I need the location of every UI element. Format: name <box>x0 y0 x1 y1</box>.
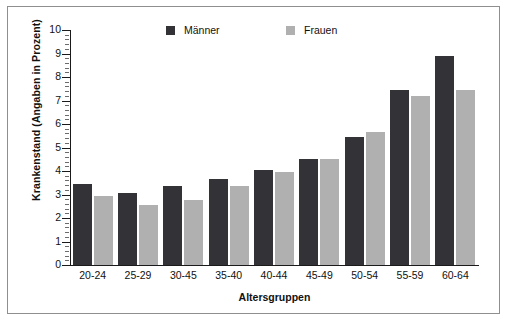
bar-männer-60-64 <box>435 56 454 265</box>
bar-group <box>435 30 475 265</box>
y-axis-tick <box>62 218 70 219</box>
y-axis-minor-tick <box>65 199 69 200</box>
bar-group <box>299 30 339 265</box>
chart-figure: MännerFrauen 012345678910 Krankenstand (… <box>0 0 507 326</box>
bar-group <box>73 30 113 265</box>
y-axis-minor-tick <box>65 166 69 167</box>
bar-männer-20-24 <box>73 184 92 265</box>
y-axis-tick <box>62 30 70 31</box>
bar-frauen-35-40 <box>230 186 249 265</box>
x-axis-line <box>70 265 479 266</box>
y-axis-minor-tick <box>65 152 69 153</box>
y-axis-minor-tick <box>65 204 69 205</box>
bar-frauen-40-44 <box>275 172 294 265</box>
y-axis-minor-tick <box>65 133 69 134</box>
bar-group <box>254 30 294 265</box>
bar-frauen-60-64 <box>456 90 475 265</box>
bar-group <box>118 30 158 265</box>
bar-frauen-50-54 <box>366 132 385 265</box>
y-axis-minor-tick <box>65 251 69 252</box>
y-axis-minor-tick <box>65 91 69 92</box>
y-axis-minor-tick <box>65 96 69 97</box>
y-axis-minor-tick <box>65 237 69 238</box>
y-axis-tick <box>62 148 70 149</box>
y-axis-minor-tick <box>65 110 69 111</box>
bar-frauen-25-29 <box>139 205 158 265</box>
bar-männer-30-45 <box>163 186 182 265</box>
y-axis-minor-tick <box>65 185 69 186</box>
y-axis-minor-tick <box>65 129 69 130</box>
bar-männer-25-29 <box>118 193 137 265</box>
y-axis-minor-tick <box>65 232 69 233</box>
y-axis-minor-tick <box>65 35 69 36</box>
y-axis-minor-tick <box>65 63 69 64</box>
y-axis-tick <box>62 124 70 125</box>
y-axis-minor-tick <box>65 72 69 73</box>
y-axis-minor-tick <box>65 213 69 214</box>
y-axis-minor-tick <box>65 190 69 191</box>
y-axis-tick <box>62 171 70 172</box>
y-axis-minor-tick <box>65 119 69 120</box>
y-axis-minor-tick <box>65 209 69 210</box>
bar-männer-40-44 <box>254 170 273 265</box>
x-axis-category-label: 60-64 <box>425 269 485 281</box>
y-axis-minor-tick <box>65 138 69 139</box>
bar-group <box>163 30 203 265</box>
y-axis-minor-tick <box>65 180 69 181</box>
bar-männer-35-40 <box>209 179 228 265</box>
y-axis-minor-tick <box>65 39 69 40</box>
y-axis-minor-tick <box>65 246 69 247</box>
y-axis-tick <box>62 101 70 102</box>
y-axis-tick <box>62 54 70 55</box>
y-axis-minor-tick <box>65 105 69 106</box>
y-axis-minor-tick <box>65 115 69 116</box>
y-axis-tick <box>62 195 70 196</box>
bar-männer-50-54 <box>345 137 364 265</box>
bar-männer-45-49 <box>299 159 318 265</box>
y-axis-minor-tick <box>65 176 69 177</box>
bar-group <box>345 30 385 265</box>
y-axis-minor-tick <box>65 256 69 257</box>
y-axis-minor-tick <box>65 162 69 163</box>
bar-group <box>209 30 249 265</box>
y-axis-minor-tick <box>65 82 69 83</box>
y-axis-tick <box>62 265 70 266</box>
y-axis-minor-tick <box>65 143 69 144</box>
bar-frauen-30-45 <box>184 200 203 265</box>
y-axis-tick <box>62 242 70 243</box>
y-axis-minor-tick <box>65 58 69 59</box>
bar-frauen-55-59 <box>411 96 430 265</box>
y-axis-minor-tick <box>65 49 69 50</box>
plot-area <box>70 30 478 265</box>
y-axis-minor-tick <box>65 227 69 228</box>
bar-frauen-20-24 <box>94 196 113 265</box>
bar-männer-55-59 <box>390 90 409 265</box>
y-axis-minor-tick <box>65 44 69 45</box>
y-axis-tick <box>62 77 70 78</box>
y-axis-minor-tick <box>65 86 69 87</box>
y-axis-minor-tick <box>65 157 69 158</box>
y-axis-minor-tick <box>65 223 69 224</box>
bar-frauen-45-49 <box>320 159 339 265</box>
y-axis-minor-tick <box>65 260 69 261</box>
x-axis-title: Altersgruppen <box>70 291 479 303</box>
bar-group <box>390 30 430 265</box>
y-axis-minor-tick <box>65 68 69 69</box>
y-axis-title: Krankenstand (Angaben in Prozent) <box>30 0 42 220</box>
y-axis-tick-label: 1 <box>9 236 61 247</box>
y-axis-tick-label: 0 <box>9 259 61 270</box>
